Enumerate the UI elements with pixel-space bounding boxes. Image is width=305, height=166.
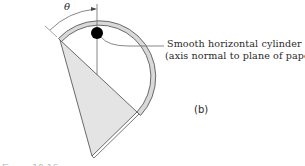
callout-label-line2: (axis normal to plane of paper) [165, 50, 305, 61]
callout-leader-line [101, 37, 164, 46]
angle-arc [50, 9, 95, 30]
part-label: (b) [194, 104, 208, 115]
angle-arrowhead-icon [91, 7, 97, 11]
angle-extension-line [45, 26, 57, 37]
figure-caption-fragment: Figure 10.16 [2, 163, 58, 166]
triangular-plate [60, 40, 137, 156]
callout-label-line1: Smooth horizontal cylinder [167, 38, 302, 49]
pendulum-diagram: θ Smooth horizontal cylinder (axis norma… [0, 0, 305, 166]
plate-edge-rim-cap [92, 156, 94, 158]
angle-label: θ [64, 1, 70, 12]
